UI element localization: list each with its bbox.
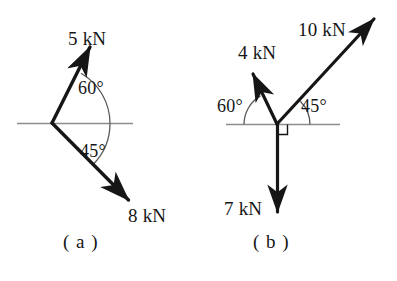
angle-label-60-a: 60° [78, 79, 104, 97]
figure-canvas [0, 0, 397, 281]
force-label-10kn: 10 kN [298, 20, 346, 39]
caption-a: ( a ) [63, 232, 99, 251]
angle-label-60-b: 60° [217, 97, 243, 115]
force-diagram-figure: 5 kN 60° 45° 8 kN ( a ) 10 kN 4 kN 60° 4… [0, 0, 397, 281]
caption-b: ( b ) [253, 232, 290, 251]
angle-arc-60-b [244, 96, 261, 125]
force-label-7kn: 7 kN [224, 199, 262, 218]
force-label-4kn: 4 kN [238, 43, 276, 62]
angle-label-45-a: 45° [80, 142, 106, 160]
force-vector-8kn [52, 123, 129, 200]
force-label-8kn: 8 kN [128, 206, 166, 225]
force-label-5kn: 5 kN [68, 29, 106, 48]
diagram-a [17, 47, 133, 200]
angle-label-45-b: 45° [301, 97, 327, 115]
